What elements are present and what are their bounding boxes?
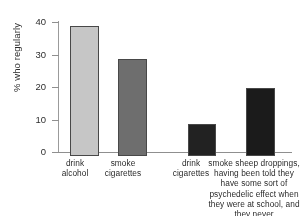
bar-smoke-cigarettes — [118, 59, 147, 157]
bar-drink-alcohol — [70, 26, 99, 156]
bar-smoke-sheep-droppings — [246, 88, 275, 157]
y-tick-label-40: 40 — [35, 16, 46, 27]
y-tick-label-20: 20 — [35, 81, 46, 92]
y-tick-label-30: 30 — [35, 49, 46, 60]
y-tick-10: 10 — [0, 120, 58, 121]
bar-drink-cigarettes — [188, 124, 216, 157]
bar-chart-figure: % who regularly 0 10 20 30 40 drink alco… — [0, 0, 302, 216]
x-category-label-4: smoke sheep droppings, having been told … — [206, 158, 302, 216]
x-category-label-2-line2: cigarettes — [94, 168, 152, 178]
y-tick-label-10: 10 — [35, 114, 46, 125]
x-category-label-2: smoke cigarettes — [94, 158, 152, 178]
y-tick-30: 30 — [0, 55, 58, 56]
y-tick-label-0: 0 — [41, 146, 46, 157]
x-category-label-2-line1: smoke — [94, 158, 152, 168]
plot-area — [58, 18, 292, 156]
y-tick-40: 40 — [0, 22, 58, 23]
y-tick-20: 20 — [0, 87, 58, 88]
y-tick-0: 0 — [0, 152, 58, 153]
